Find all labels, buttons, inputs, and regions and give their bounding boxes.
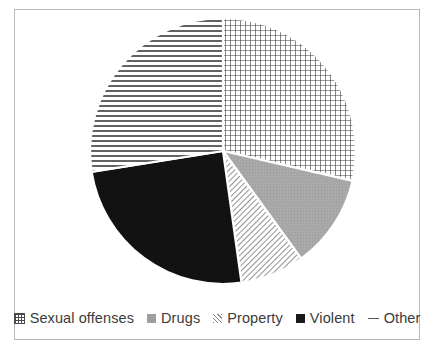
legend-label-violent: Violent xyxy=(310,310,355,326)
chart-frame: Sexual offenses Drugs Property Violent O… xyxy=(14,9,420,340)
legend-item-other[interactable]: Other xyxy=(368,310,421,326)
figure-caption xyxy=(16,344,416,353)
legend-item-drugs[interactable]: Drugs xyxy=(147,310,200,326)
diagonal-swatch-icon xyxy=(213,314,222,323)
black-square-swatch-icon xyxy=(296,314,305,323)
grid-swatch-icon xyxy=(14,313,25,324)
dash-swatch-icon xyxy=(368,314,379,323)
gray-square-swatch-icon xyxy=(147,314,156,323)
pie-slice-other[interactable] xyxy=(90,18,223,172)
pie-slices xyxy=(90,18,356,284)
legend-label-property: Property xyxy=(227,310,283,326)
legend-item-violent[interactable]: Violent xyxy=(296,310,355,326)
legend-label-other: Other xyxy=(384,310,421,326)
legend-item-property[interactable]: Property xyxy=(213,310,283,326)
legend-label-drugs: Drugs xyxy=(161,310,200,326)
legend-label-sexual-offenses: Sexual offenses xyxy=(30,310,134,326)
chart-legend: Sexual offenses Drugs Property Violent O… xyxy=(15,298,419,338)
pie-chart-area xyxy=(15,10,421,295)
pie-slice-violent[interactable] xyxy=(92,151,242,284)
legend-item-sexual-offenses[interactable]: Sexual offenses xyxy=(14,310,134,326)
pie-chart-svg xyxy=(15,10,421,295)
